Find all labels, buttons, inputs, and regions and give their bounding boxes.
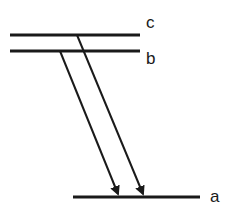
transition-b-to-a-arrow: [60, 51, 118, 194]
transition-c-to-a-arrow: [77, 35, 143, 194]
level-c-label: c: [146, 13, 155, 32]
level-a-label: a: [210, 187, 220, 206]
energy-level-diagram: c b a: [0, 0, 234, 207]
level-b-label: b: [146, 49, 155, 68]
